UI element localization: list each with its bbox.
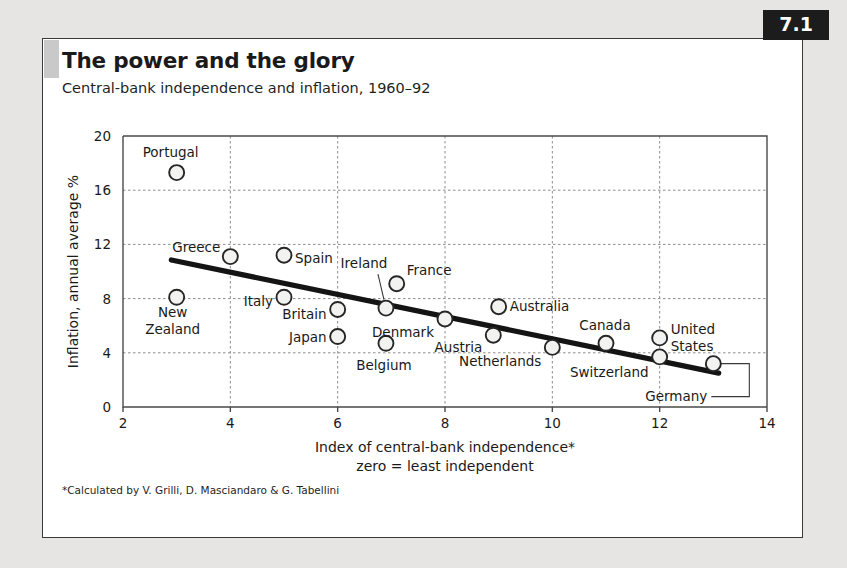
figure-number-badge: 7.1 xyxy=(763,10,829,40)
figure-page: The power and the glory Central-bank ind… xyxy=(0,0,847,568)
footnote: *Calculated by V. Grilli, D. Masciandaro… xyxy=(62,484,339,496)
accent-square xyxy=(44,40,59,78)
page-subtitle: Central-bank independence and inflation,… xyxy=(62,80,431,96)
figure-card xyxy=(42,38,803,538)
page-title: The power and the glory xyxy=(62,48,355,73)
